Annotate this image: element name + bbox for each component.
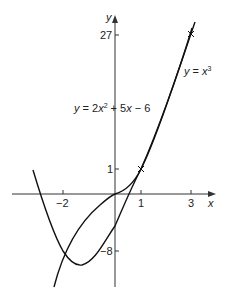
y-axis-label: y bbox=[105, 11, 113, 23]
x-tick-label-neg2: −2 bbox=[56, 197, 69, 209]
x-tick-label-3: 3 bbox=[188, 197, 194, 209]
quadratic-equation-label: y = 2x2 + 5x − 6 bbox=[73, 102, 150, 114]
cubic-curve bbox=[54, 22, 195, 287]
y-axis-arrow-icon bbox=[112, 15, 118, 23]
cubic-equation-label: y = x3 bbox=[183, 65, 212, 77]
y-tick-label-27: 27 bbox=[100, 29, 112, 41]
graph-canvas: y x −2 1 3 27 1 −8 y = x3 y = 2x2 + 5x −… bbox=[0, 0, 231, 304]
quadratic-curve bbox=[33, 28, 192, 265]
x-tick-label-1: 1 bbox=[138, 197, 144, 209]
y-tick-label-1: 1 bbox=[107, 163, 113, 175]
x-axis-label: x bbox=[207, 197, 214, 209]
intersection-1-1-icon bbox=[138, 166, 144, 172]
